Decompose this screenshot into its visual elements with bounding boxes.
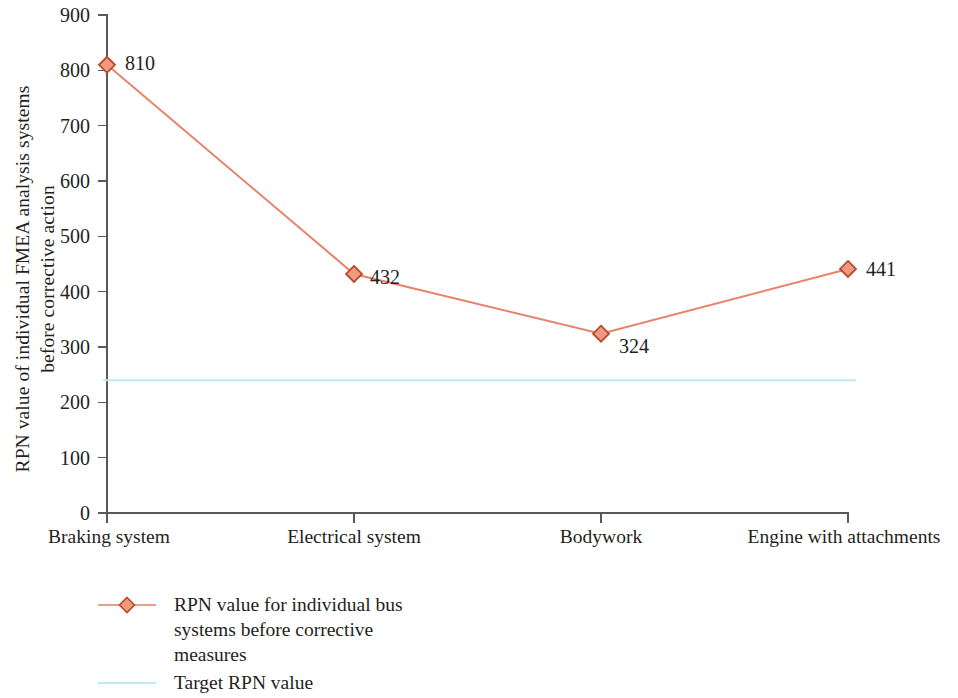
legend-item-series-label: RPN value for individual bus systems bef…	[174, 592, 403, 667]
legend-item-target[interactable]: Target RPN value	[96, 670, 516, 695]
data-point-value-label: 810	[125, 53, 155, 73]
series-line	[107, 65, 848, 334]
legend-item-series[interactable]: RPN value for individual bus systems bef…	[96, 592, 516, 667]
data-point-value-label: 441	[866, 259, 896, 279]
data-point-value-label: 432	[370, 267, 400, 287]
legend-series-line-1: RPN value for individual bus	[174, 592, 403, 617]
chart-container: RPN value of individual FMEA analysis sy…	[0, 0, 958, 698]
chart-legend: RPN value for individual bus systems bef…	[96, 592, 516, 698]
legend-series-line-2: systems before corrective	[174, 617, 403, 642]
data-point-value-label: 324	[619, 336, 649, 356]
data-point-marker[interactable]	[840, 261, 856, 277]
legend-line-diamond-marker-icon	[96, 592, 158, 617]
plot-series-layer	[0, 0, 958, 560]
legend-item-target-label: Target RPN value	[174, 670, 313, 695]
legend-target-line-1: Target RPN value	[174, 670, 313, 695]
legend-series-line-3: measures	[174, 642, 403, 667]
legend-line-plain-icon	[96, 670, 158, 695]
data-point-marker[interactable]	[593, 326, 609, 342]
